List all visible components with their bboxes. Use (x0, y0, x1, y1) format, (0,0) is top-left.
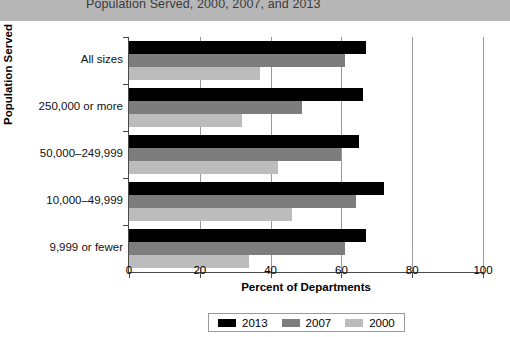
y-tick (123, 131, 129, 132)
legend-item-2007[interactable]: 2007 (282, 317, 332, 329)
bar-2007[interactable] (129, 195, 356, 208)
legend-swatch-2000 (345, 319, 363, 327)
x-tick-label-100: 100 (463, 264, 503, 276)
bar-2013[interactable] (129, 135, 359, 148)
legend-item-2013[interactable]: 2013 (218, 317, 268, 329)
bar-2013[interactable] (129, 229, 366, 242)
bar-2013[interactable] (129, 182, 384, 195)
bar-group (129, 178, 483, 225)
y-axis-label-1: 250,000 or more (5, 100, 123, 112)
y-tick (123, 225, 129, 226)
bar-group (129, 131, 483, 178)
y-axis-category-labels: All sizes250,000 or more50,000–249,99910… (3, 37, 123, 272)
bar-group (129, 37, 483, 84)
y-axis-label-4: 9,999 or fewer (5, 241, 123, 253)
legend-swatch-2013 (218, 319, 236, 327)
gridline-x-100 (483, 37, 484, 272)
legend-swatch-2007 (282, 319, 300, 327)
y-axis-label-0: All sizes (5, 53, 123, 65)
x-axis-title: Percent of Departments (129, 281, 483, 293)
x-tick-label-80: 80 (392, 264, 432, 276)
chart-legend: 201320072000 (208, 313, 405, 332)
legend-label-2013: 2013 (242, 317, 268, 329)
y-tick (123, 84, 129, 85)
bar-2007[interactable] (129, 101, 302, 114)
plot-area (129, 37, 483, 272)
y-tick (123, 37, 129, 38)
legend-label-2007: 2007 (306, 317, 332, 329)
bar-2013[interactable] (129, 41, 366, 54)
y-tick (123, 178, 129, 179)
y-axis-label-2: 50,000–249,999 (5, 147, 123, 159)
bar-2007[interactable] (129, 148, 341, 161)
bar-2000[interactable] (129, 161, 278, 174)
bar-2007[interactable] (129, 242, 345, 255)
chart-area: Population Served All sizes250,000 or mo… (0, 21, 510, 337)
chart-title-band: Population Served, 2000, 2007, and 2013 (0, 0, 510, 21)
legend-item-2000[interactable]: 2000 (345, 317, 395, 329)
x-tick-label-40: 40 (251, 264, 291, 276)
chart-title: Population Served, 2000, 2007, and 2013 (86, 0, 321, 11)
bar-group (129, 84, 483, 131)
bar-2007[interactable] (129, 54, 345, 67)
bar-2000[interactable] (129, 67, 260, 80)
legend-label-2000: 2000 (369, 317, 395, 329)
x-tick-label-0: 0 (109, 264, 149, 276)
bar-2000[interactable] (129, 208, 292, 221)
y-axis-label-3: 10,000–49,999 (5, 194, 123, 206)
bar-2013[interactable] (129, 88, 363, 101)
x-tick-label-60: 60 (321, 264, 361, 276)
x-tick-label-20: 20 (180, 264, 220, 276)
bar-2000[interactable] (129, 114, 242, 127)
